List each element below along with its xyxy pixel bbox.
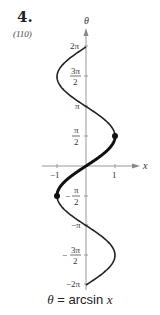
y-tick-3pi2-den: 2 <box>73 77 78 87</box>
y-tick-pi: π <box>75 101 80 111</box>
y-tick-m2pi: −2π <box>66 279 81 289</box>
y-tick-pi2-den: 2 <box>74 137 79 147</box>
y-tick-pi2-num: π <box>74 125 79 135</box>
caption: θ = arcsin x <box>0 292 160 308</box>
y-tick-mpi2-den: 2 <box>74 197 79 207</box>
theta-axis-label: θ <box>84 15 89 26</box>
y-tick-minus-sign: − <box>65 191 70 201</box>
arcsin-graph: θ x −1 1 2π 3π 2 π π 2 − π 2 −π − 3π 2 −… <box>0 0 160 315</box>
y-tick-mpi: −π <box>71 220 81 230</box>
x-tick-minus-1: −1 <box>50 170 60 180</box>
y-tick-m3pi2-den: 2 <box>73 256 78 266</box>
endpoint-bottom <box>54 193 60 199</box>
y-tick-2pi: 2π <box>70 41 80 51</box>
y-tick-3pi2-num: 3π <box>71 66 81 76</box>
y-tick-mpi2-num: π <box>74 185 79 195</box>
y-tick-m3pi2-num: 3π <box>71 245 81 255</box>
y-tick-minus-sign-2: − <box>62 250 67 260</box>
endpoint-top <box>112 133 118 139</box>
theta-axis-arrow <box>84 28 89 36</box>
x-tick-1: 1 <box>112 170 117 180</box>
x-axis-arrow <box>132 164 140 169</box>
x-axis-label: x <box>142 160 148 171</box>
